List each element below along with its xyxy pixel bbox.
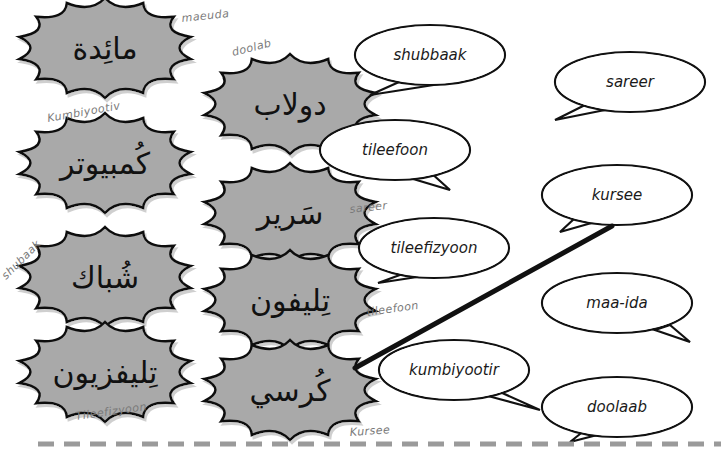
arabic-word: كُمبيوتر: [58, 141, 151, 180]
arabic-word: تِليفزيون: [53, 355, 158, 390]
burst-kumbiyootir[interactable]: كُمبيوتر: [19, 113, 191, 213]
burst-maaida[interactable]: مائِدة: [19, 0, 191, 98]
transliteration-label: tileefizyoon: [391, 239, 478, 257]
bubble-kumbiyootir[interactable]: kumbiyootir: [379, 340, 540, 410]
bubble-tileefizyoon[interactable]: tileefizyoon: [359, 218, 509, 283]
arabic-word: سَرير: [255, 196, 324, 231]
handwritten-tileefoon: tileefoon: [366, 299, 420, 319]
bubble-kursee[interactable]: kursee: [542, 165, 692, 232]
transliteration-bubbles: shubbaaksareertileefoonkurseetileefizyoo…: [320, 25, 705, 442]
transliteration-label: doolaab: [587, 398, 647, 416]
transliteration-label: kursee: [592, 186, 643, 204]
arabic-word: شُباك: [71, 260, 139, 295]
bubble-doolaab[interactable]: doolaab: [542, 377, 692, 442]
handwritten-doolab: doolab: [231, 37, 273, 59]
handwritten-sareer: sareer: [349, 199, 389, 216]
transliteration-label: tileefoon: [362, 141, 428, 159]
bubble-shubbaak[interactable]: shubbaak: [355, 25, 505, 95]
transliteration-label: sareer: [606, 73, 655, 91]
transliteration-label: kumbiyootir: [409, 361, 500, 379]
arabic-word: مائِدة: [72, 31, 137, 66]
arabic-word: تِليفون: [250, 283, 331, 318]
handwritten-kursee: Kursee: [349, 423, 390, 439]
bubble-sareer[interactable]: sareer: [555, 52, 705, 120]
transliteration-label: maa-ida: [586, 294, 647, 312]
worksheet-canvas: مائِدةدولابكُمبيوترسَريرشُباكتِليفونتِلي…: [0, 0, 721, 452]
burst-tileefoon[interactable]: تِليفون: [204, 250, 376, 350]
arabic-word: دولاب: [253, 87, 326, 123]
bubble-maa-ida[interactable]: maa-ida: [542, 273, 692, 342]
handwritten-maeuda: maeuda: [181, 7, 230, 25]
arabic-word-bursts: مائِدةدولابكُمبيوترسَريرشُباكتِليفونتِلي…: [19, 0, 376, 440]
burst-shubbaak[interactable]: شُباك: [19, 227, 191, 327]
arabic-word: كُرسي: [250, 368, 332, 408]
bubble-tileefoon[interactable]: tileefoon: [320, 120, 470, 190]
transliteration-label: shubbaak: [394, 46, 468, 64]
